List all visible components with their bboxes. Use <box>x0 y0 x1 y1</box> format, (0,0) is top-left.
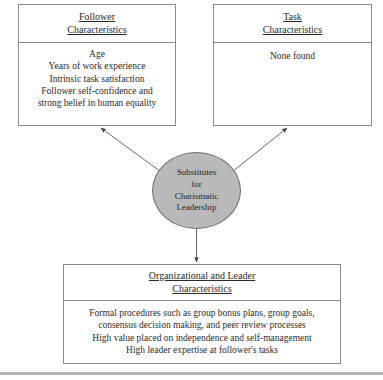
organizational-body-line-3: High value placed on independence and se… <box>68 332 336 344</box>
follower-body-line-3: Intrinsic task satisfaction <box>23 73 171 85</box>
task-body-line-1: None found <box>218 50 367 62</box>
organizational-and-leader-characteristics-box: Organizational and Leader Characteristic… <box>63 264 341 364</box>
follower-header-line-1: Follower <box>79 11 115 24</box>
organizational-characteristics-body: Formal procedures such as group bonus pl… <box>64 301 340 360</box>
follower-characteristics-body: Age Years of work experience Intrinsic t… <box>19 43 175 114</box>
follower-characteristics-box: Follower Characteristics Age Years of wo… <box>18 4 176 126</box>
ellipse-line-2: for <box>191 179 202 191</box>
task-characteristics-box: Task Characteristics None found <box>213 4 372 126</box>
follower-body-line-5: strong belief in human equality <box>23 97 171 109</box>
ellipse-line-3: Charismatic <box>175 191 219 203</box>
task-characteristics-header: Task Characteristics <box>214 5 371 43</box>
follower-body-line-4: Follower self-confidence and <box>23 85 171 97</box>
substitutes-for-charismatic-leadership-node: Substitutes for Charismatic Leadership <box>152 152 241 229</box>
task-header-line-2: Characteristics <box>263 24 322 37</box>
organizational-body-line-4: High leader expertise at follower's task… <box>68 344 336 356</box>
follower-characteristics-header: Follower Characteristics <box>19 5 175 43</box>
organizational-characteristics-header: Organizational and Leader Characteristic… <box>64 265 340 301</box>
task-characteristics-body: None found <box>214 43 371 66</box>
follower-header-line-2: Characteristics <box>67 24 126 37</box>
ellipse-line-4: Leadership <box>177 202 217 214</box>
task-header-line-1: Task <box>283 11 302 24</box>
organizational-body-line-2: consensus decision making, and peer revi… <box>68 319 336 331</box>
organizational-header-line-2: Characteristics <box>172 283 231 296</box>
follower-body-line-1: Age <box>23 48 171 60</box>
organizational-header-line-1: Organizational and Leader <box>149 270 255 283</box>
organizational-body-line-1: Formal procedures such as group bonus pl… <box>68 307 336 319</box>
ellipse-line-1: Substitutes <box>177 167 217 179</box>
diagram-canvas: Follower Characteristics Age Years of wo… <box>0 0 383 380</box>
follower-body-line-2: Years of work experience <box>23 60 171 72</box>
bottom-divider-rule <box>0 372 383 375</box>
